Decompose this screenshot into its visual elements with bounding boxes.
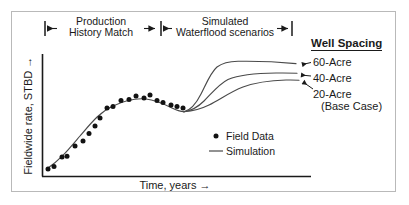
data-point [111, 104, 116, 109]
data-point [127, 97, 132, 102]
data-point [87, 131, 92, 136]
data-point [93, 124, 98, 129]
phase-label-forecast-line2: Waterflood scenarios [176, 26, 274, 38]
phase-bracket-forecast [277, 21, 292, 36]
curve-20-acre [184, 80, 299, 112]
series-label-20-acre-sublabel: (Base Case) [321, 101, 382, 112]
legend-dot-icon [214, 134, 219, 139]
data-point [181, 106, 186, 111]
y-axis-label: Fieldwide rate, STBD → [23, 41, 34, 191]
phase-divider-tick [161, 21, 172, 36]
phase-label-forecast: SimulatedWaterflood scenarios [173, 16, 277, 38]
series-label-60-acre: 60-Acre [313, 57, 352, 68]
well-spacing-title: Well Spacing [311, 38, 382, 51]
series-leader-arrows [301, 63, 313, 90]
data-point [142, 96, 147, 101]
chart-axes [42, 54, 311, 177]
data-point [98, 116, 103, 121]
figure-container: ProductionHistory Match SimulatedWaterfl… [0, 0, 409, 205]
data-point [65, 154, 70, 159]
data-point [60, 155, 65, 160]
data-point [161, 100, 166, 105]
data-point [81, 139, 86, 144]
data-point [175, 104, 180, 109]
series-label-40-acre: 40-Acre [313, 73, 352, 84]
data-point [52, 164, 57, 169]
data-point [155, 98, 160, 103]
data-point [148, 93, 153, 98]
phase-label-history: ProductionHistory Match [57, 16, 145, 38]
legend-label-simulation: Simulation [226, 146, 275, 157]
data-point [105, 106, 110, 111]
series-label-20-acre: 20-Acre [313, 89, 352, 100]
legend-label-field-data: Field Data [226, 131, 274, 142]
data-point [134, 94, 139, 99]
data-point [119, 98, 124, 103]
data-point [46, 167, 51, 172]
x-axis-label: Time, years → [105, 180, 245, 191]
phase-label-history-line2: History Match [69, 26, 133, 38]
data-point [169, 103, 174, 108]
curve-40-acre [184, 73, 297, 112]
legend-markers [209, 134, 223, 152]
data-point [73, 144, 78, 149]
